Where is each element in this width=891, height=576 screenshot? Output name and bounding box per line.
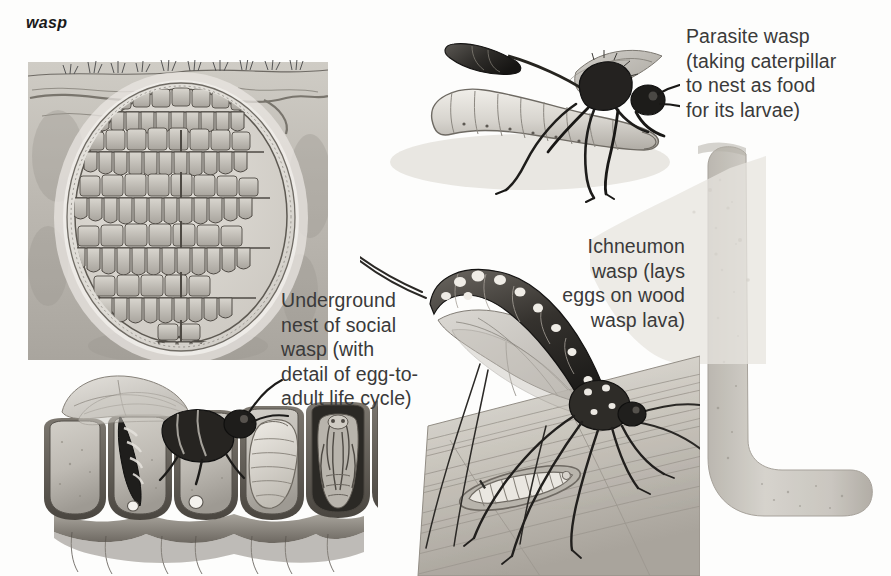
- egg: [128, 501, 139, 511]
- social-wasp-eye: [240, 415, 248, 423]
- wasp-head: [631, 85, 665, 115]
- wasp-petiole: [508, 56, 584, 90]
- egg: [189, 496, 203, 509]
- ichneumon-eye: [633, 407, 640, 414]
- comb-tier: [72, 174, 270, 224]
- wasp-abdomen: [445, 44, 521, 75]
- caption-underground-nest: Underground nest of social wasp (with de…: [281, 288, 418, 411]
- illustration-plate: wasp: [0, 0, 891, 576]
- ichneumon-head: [618, 402, 646, 426]
- ichneumon-thorax: [569, 380, 630, 430]
- wasp-eye: [649, 92, 658, 101]
- social-wasp-figure: [44, 368, 294, 488]
- social-wasp-head: [224, 410, 256, 438]
- wasp-thorax: [579, 62, 632, 111]
- comb-tier: [80, 128, 264, 176]
- life-cycle-cell: [306, 402, 370, 518]
- caption-ichneumon-wasp: Ichneumon wasp (lays eggs on wood wasp l…: [395, 234, 685, 332]
- page-title: wasp: [26, 14, 67, 32]
- caption-parasite-wasp: Parasite wasp (taking caterpillar to nes…: [686, 24, 836, 122]
- comb-base: [54, 514, 364, 574]
